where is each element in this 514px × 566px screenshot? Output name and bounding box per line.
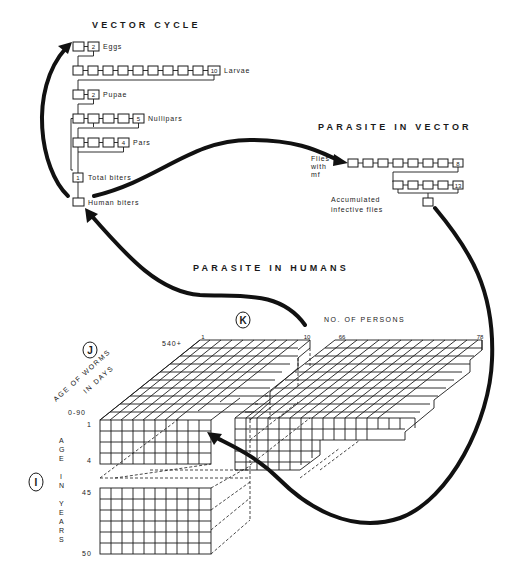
svg-text:S: S: [59, 536, 64, 543]
svg-text:G: G: [59, 446, 65, 453]
svg-text:E: E: [59, 455, 64, 462]
accumulated-label-2: infective flies: [331, 206, 383, 213]
larvae-label: Larvae: [224, 67, 250, 74]
left-block-3d: [100, 340, 310, 554]
human-age-tick-1: 1: [87, 421, 92, 428]
life-cycle-diagram: VECTOR CYCLE 2 Eggs: [0, 0, 514, 566]
flies-row-2: 13: [393, 181, 463, 198]
flies-label-2: with: [310, 163, 327, 170]
svg-text:A: A: [59, 518, 64, 525]
svg-text:I: I: [60, 473, 63, 480]
vector-cycle-section: VECTOR CYCLE 2 Eggs: [71, 20, 250, 206]
arrow-human-biters-to-eggs: [42, 42, 72, 196]
worm-age-tick-540: 540+: [162, 340, 182, 347]
marker-i: I: [35, 477, 38, 488]
nullipars-row: 5 Nullipars: [73, 114, 182, 138]
human-biters-row: Human biters: [73, 198, 139, 206]
human-biters-label: Human biters: [88, 199, 139, 206]
svg-text:N: N: [59, 482, 65, 489]
nullipars-label: Nullipars: [148, 115, 182, 123]
svg-text:R: R: [59, 527, 65, 534]
human-age-tick-4: 4: [87, 457, 92, 464]
parasite-in-vector-section: PARASITE IN VECTOR Flies with mf 8: [310, 122, 472, 213]
vector-cycle-title: VECTOR CYCLE: [92, 20, 201, 30]
arrow-infective-flies-to-humans: [207, 208, 492, 523]
persons-tick-66: 66: [339, 334, 346, 340]
parasite-in-vector-title: PARASITE IN VECTOR: [318, 122, 472, 132]
marker-j: J: [87, 345, 93, 356]
accumulated-infective-box: [423, 198, 433, 206]
larvae-row: 10 Larvae: [73, 66, 250, 90]
human-age-tick-50: 50: [82, 550, 92, 557]
flies-row-1: 8: [348, 159, 463, 182]
pupae-label: Pupae: [103, 91, 127, 99]
parasite-in-humans-section: PARASITE IN HUMANS K NO. OF PERSONS 1 10…: [29, 263, 484, 557]
arrow-human-biters-to-flies: [94, 140, 348, 196]
marker-k: K: [239, 315, 247, 326]
total-biters-label: Total biters: [88, 174, 131, 181]
svg-text:E: E: [59, 509, 64, 516]
flies-row-2-count: 13: [455, 183, 462, 189]
eggs-row: 2 Eggs: [73, 42, 122, 66]
svg-text:Y: Y: [59, 500, 64, 507]
human-age-label: A G E I N Y E A R S: [59, 437, 65, 543]
eggs-label: Eggs: [103, 43, 122, 51]
persons-tick-78: 78: [477, 334, 484, 340]
svg-text:A: A: [59, 437, 64, 444]
accumulated-label-1: Accumulated: [331, 196, 380, 203]
worm-age-tick-0-90: 0-90: [68, 409, 86, 416]
parasite-in-humans-title: PARASITE IN HUMANS: [193, 263, 349, 273]
pupae-row: 2 Pupae: [73, 90, 127, 114]
flies-label-3: mf: [311, 171, 320, 178]
persons-tick-1: 1: [201, 334, 205, 340]
human-age-tick-45: 45: [82, 489, 92, 496]
larvae-count: 10: [211, 68, 218, 74]
persons-axis-label: NO. OF PERSONS: [324, 316, 405, 323]
pars-label: Pars: [133, 139, 151, 146]
persons-tick-10: 10: [304, 334, 311, 340]
